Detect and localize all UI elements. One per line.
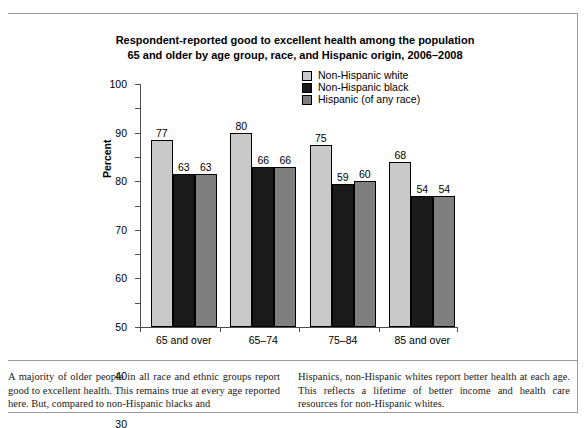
bar-group-bars: 755960 [310, 84, 376, 327]
bar-value-label: 54 [438, 183, 450, 195]
bar-group-bars: 776363 [151, 84, 217, 327]
bar-value-label: 77 [156, 127, 168, 139]
bar-group-bars: 806666 [230, 84, 296, 327]
x-axis-category-label: 65–74 [249, 334, 278, 346]
bar[interactable]: 60 [354, 181, 376, 327]
caption-left-column: A majority of older people in all race a… [8, 370, 280, 411]
y-axis-tick-label: 60 [115, 272, 127, 284]
page-bottom-rule [8, 412, 578, 413]
page-top-rule [8, 13, 578, 14]
y-axis-tick: 70 [135, 157, 140, 158]
bar[interactable]: 80 [230, 133, 252, 327]
x-axis-tick [379, 327, 380, 332]
bar-value-label: 63 [178, 161, 190, 173]
bar[interactable]: 68 [389, 162, 411, 327]
bar-group: 80666665–74 [230, 84, 296, 327]
bar[interactable]: 54 [411, 196, 433, 327]
plot-area: 100908070605040302010077636365 and over8… [140, 84, 458, 327]
chart-title-line-1: Respondent-reported good to excellent he… [90, 33, 500, 48]
y-axis-tick-label: 70 [115, 224, 127, 236]
bar[interactable]: 63 [195, 174, 217, 327]
y-axis-tick: 40 [135, 230, 140, 231]
bar-value-label: 54 [416, 183, 428, 195]
y-axis-tick: 20 [135, 278, 140, 279]
bar-value-label: 59 [337, 171, 349, 183]
x-axis-tick [220, 327, 221, 332]
bar-value-label: 63 [200, 161, 212, 173]
y-axis-line [140, 84, 141, 327]
x-axis-tick [299, 327, 300, 332]
bar[interactable]: 75 [310, 145, 332, 327]
y-axis-tick: 30 [135, 254, 140, 255]
chart-title: Respondent-reported good to excellent he… [90, 33, 500, 63]
y-axis-tick: 50 [135, 206, 140, 207]
legend-item: Non-Hispanic white [302, 70, 420, 81]
bar[interactable]: 63 [173, 174, 195, 327]
x-axis-tick [457, 327, 458, 332]
y-axis-tick-label: 80 [115, 175, 127, 187]
bar-group-bars: 685454 [389, 84, 455, 327]
bar-value-label: 75 [315, 132, 327, 144]
y-axis-tick: 60 [135, 181, 140, 182]
y-axis-tick-label: 30 [115, 418, 127, 428]
bar-group: 77636365 and over [151, 84, 217, 327]
bar-value-label: 66 [257, 154, 269, 166]
caption-block: A majority of older people in all race a… [8, 370, 570, 411]
y-axis-tick: 100 [135, 84, 140, 85]
y-axis-tick-label: 50 [115, 321, 127, 333]
bar[interactable]: 66 [252, 167, 274, 327]
legend-swatch-icon [302, 71, 312, 81]
bar[interactable]: 59 [332, 184, 354, 327]
page-right-rule [577, 13, 578, 413]
y-axis-label: Percent [101, 139, 113, 178]
bar[interactable]: 77 [151, 140, 173, 327]
x-axis-category-label: 75–84 [328, 334, 357, 346]
bar-value-label: 66 [279, 154, 291, 166]
bar-value-label: 80 [235, 120, 247, 132]
x-axis-category-label: 85 and over [395, 334, 450, 346]
y-axis-tick: 10 [135, 303, 140, 304]
bar[interactable]: 54 [433, 196, 455, 327]
caption-right-column: Hispanics, non-Hispanic whites report be… [298, 370, 570, 411]
chart-title-line-2: 65 and older by age group, race, and His… [90, 48, 500, 63]
bar-value-label: 60 [359, 168, 371, 180]
x-axis-tick [140, 327, 141, 332]
bar[interactable]: 66 [274, 167, 296, 327]
x-axis-category-label: 65 and over [156, 334, 211, 346]
bar-group: 75596075–84 [310, 84, 376, 327]
y-axis-tick-label: 100 [109, 78, 127, 90]
bar-value-label: 68 [394, 149, 406, 161]
y-axis-tick: 80 [135, 133, 140, 134]
caption-top-rule [8, 360, 578, 361]
bar-group: 68545485 and over [389, 84, 455, 327]
y-axis-tick-label: 90 [115, 127, 127, 139]
legend-label: Non-Hispanic white [318, 70, 408, 81]
y-axis-tick: 90 [135, 108, 140, 109]
